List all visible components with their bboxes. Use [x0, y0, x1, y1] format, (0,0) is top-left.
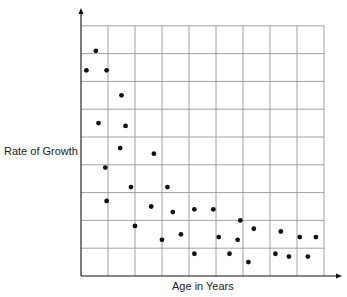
x-axis-label: Age in Years — [172, 280, 234, 292]
data-point — [179, 232, 184, 237]
data-point — [170, 210, 175, 215]
data-point — [160, 237, 165, 242]
data-point — [227, 251, 232, 256]
data-point — [287, 254, 292, 259]
data-point — [84, 68, 89, 73]
data-point — [104, 199, 109, 204]
data-point — [192, 251, 197, 256]
data-point — [119, 93, 124, 98]
grid — [81, 26, 324, 276]
data-point — [251, 226, 256, 231]
data-point — [314, 235, 319, 240]
y-axis-label: Rate of Growth — [4, 145, 78, 157]
data-point — [211, 207, 216, 212]
data-point — [297, 235, 302, 240]
data-point — [165, 185, 170, 190]
data-point — [118, 146, 123, 151]
data-point — [192, 207, 197, 212]
data-point — [123, 123, 128, 128]
data-point — [273, 251, 278, 256]
data-point — [133, 224, 138, 229]
data-points — [84, 48, 318, 264]
data-point — [129, 185, 134, 190]
data-point — [235, 237, 240, 242]
axes — [79, 8, 343, 279]
data-point — [246, 260, 251, 265]
data-point — [216, 235, 221, 240]
data-point — [152, 151, 157, 156]
data-point — [104, 68, 109, 73]
data-point — [149, 204, 154, 209]
data-point — [305, 254, 310, 259]
data-point — [278, 229, 283, 234]
data-point — [96, 121, 101, 126]
data-point — [93, 48, 98, 53]
data-point — [103, 165, 108, 170]
data-point — [238, 218, 243, 223]
